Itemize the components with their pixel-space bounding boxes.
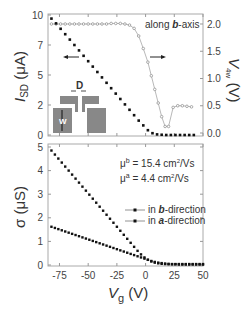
y-tick-label: 10	[32, 10, 44, 21]
y-tick-label: 1.5	[207, 46, 221, 57]
bottom-panel: 543210 -75-50-2502550 σ (μS) Vg (V) μb =…	[11, 142, 209, 305]
sigma-a-series	[50, 226, 204, 266]
y-tick-label: 2	[37, 212, 43, 223]
mobility-a: μa = 4.4 cm2/Vs	[120, 172, 189, 184]
y-tick-label: 1	[37, 236, 43, 247]
y-tick-label: 4	[37, 165, 43, 176]
mobility-b: μb = 15.4 cm2/Vs	[120, 157, 194, 169]
y-tick-label: 2	[37, 100, 43, 111]
top-panel: 107520 2.01.51.00.50.0 ISD (μA) V4w (V) …	[11, 10, 243, 141]
y-tick-label: 0	[37, 130, 43, 141]
svg-text:in b-direction: in b-direction	[148, 204, 206, 215]
x-tick-label: -75	[52, 270, 67, 281]
width-label: W	[59, 117, 67, 126]
gap-label: D	[76, 80, 83, 91]
y-tick-label: 2.0	[207, 19, 221, 30]
x-tick-label: 50	[197, 270, 209, 281]
top-left-ylabel: ISD (μA)	[11, 51, 30, 102]
y-tick-label: 5	[37, 142, 43, 153]
x-tick-label: -50	[81, 270, 96, 281]
y-tick-label: 1.0	[207, 73, 221, 84]
legend-entry-b: in b-direction	[125, 204, 206, 215]
y-tick-label: 7	[37, 40, 43, 51]
x-tick-label: 25	[169, 270, 181, 281]
bottom-xlabel: Vg (V)	[108, 284, 148, 304]
chart-figure: 107520 2.01.51.00.50.0 ISD (μA) V4w (V) …	[0, 0, 246, 314]
y-tick-label: 3	[37, 189, 43, 200]
legend: in b-direction in a-direction	[125, 204, 206, 226]
bottom-ylabel: σ (μS)	[11, 186, 28, 228]
svg-text:in a-direction: in a-direction	[148, 215, 205, 226]
right-arrow	[150, 55, 166, 59]
y-tick-label: 5	[37, 70, 43, 81]
top-x-ticks	[59, 14, 203, 136]
y-tick-label: 0.0	[207, 128, 221, 139]
y-tick-label: 0	[37, 260, 43, 271]
legend-entry-a: in a-direction	[125, 215, 205, 226]
left-arrow	[63, 55, 79, 59]
device-inset: D W	[53, 80, 106, 133]
y-tick-label: 0.5	[207, 100, 221, 111]
x-tick-label: 0	[143, 270, 149, 281]
x-tick-label: -25	[110, 270, 125, 281]
top-right-ylabel: V4w (V)	[224, 58, 243, 102]
top-annotation: along b-axis	[145, 19, 199, 30]
